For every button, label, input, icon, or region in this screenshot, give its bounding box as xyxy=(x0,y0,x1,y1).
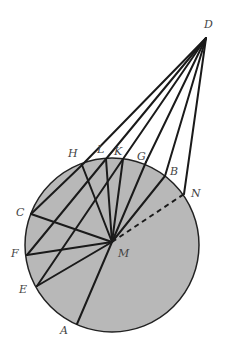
segment-DK xyxy=(123,38,206,159)
point-label-A: A xyxy=(59,324,68,337)
circle xyxy=(25,158,199,332)
point-label-F: F xyxy=(10,247,19,260)
point-label-M: M xyxy=(117,247,130,260)
point-label-H: H xyxy=(67,147,78,160)
point-label-K: K xyxy=(113,145,123,158)
point-label-G: G xyxy=(137,150,146,163)
point-label-N: N xyxy=(190,187,201,200)
geometry-diagram: DMHLKGBNCFEA xyxy=(0,0,226,355)
point-label-D: D xyxy=(203,18,213,31)
point-label-E: E xyxy=(18,283,27,296)
point-label-B: B xyxy=(169,165,178,178)
point-label-L: L xyxy=(96,143,104,156)
point-label-C: C xyxy=(16,206,25,219)
